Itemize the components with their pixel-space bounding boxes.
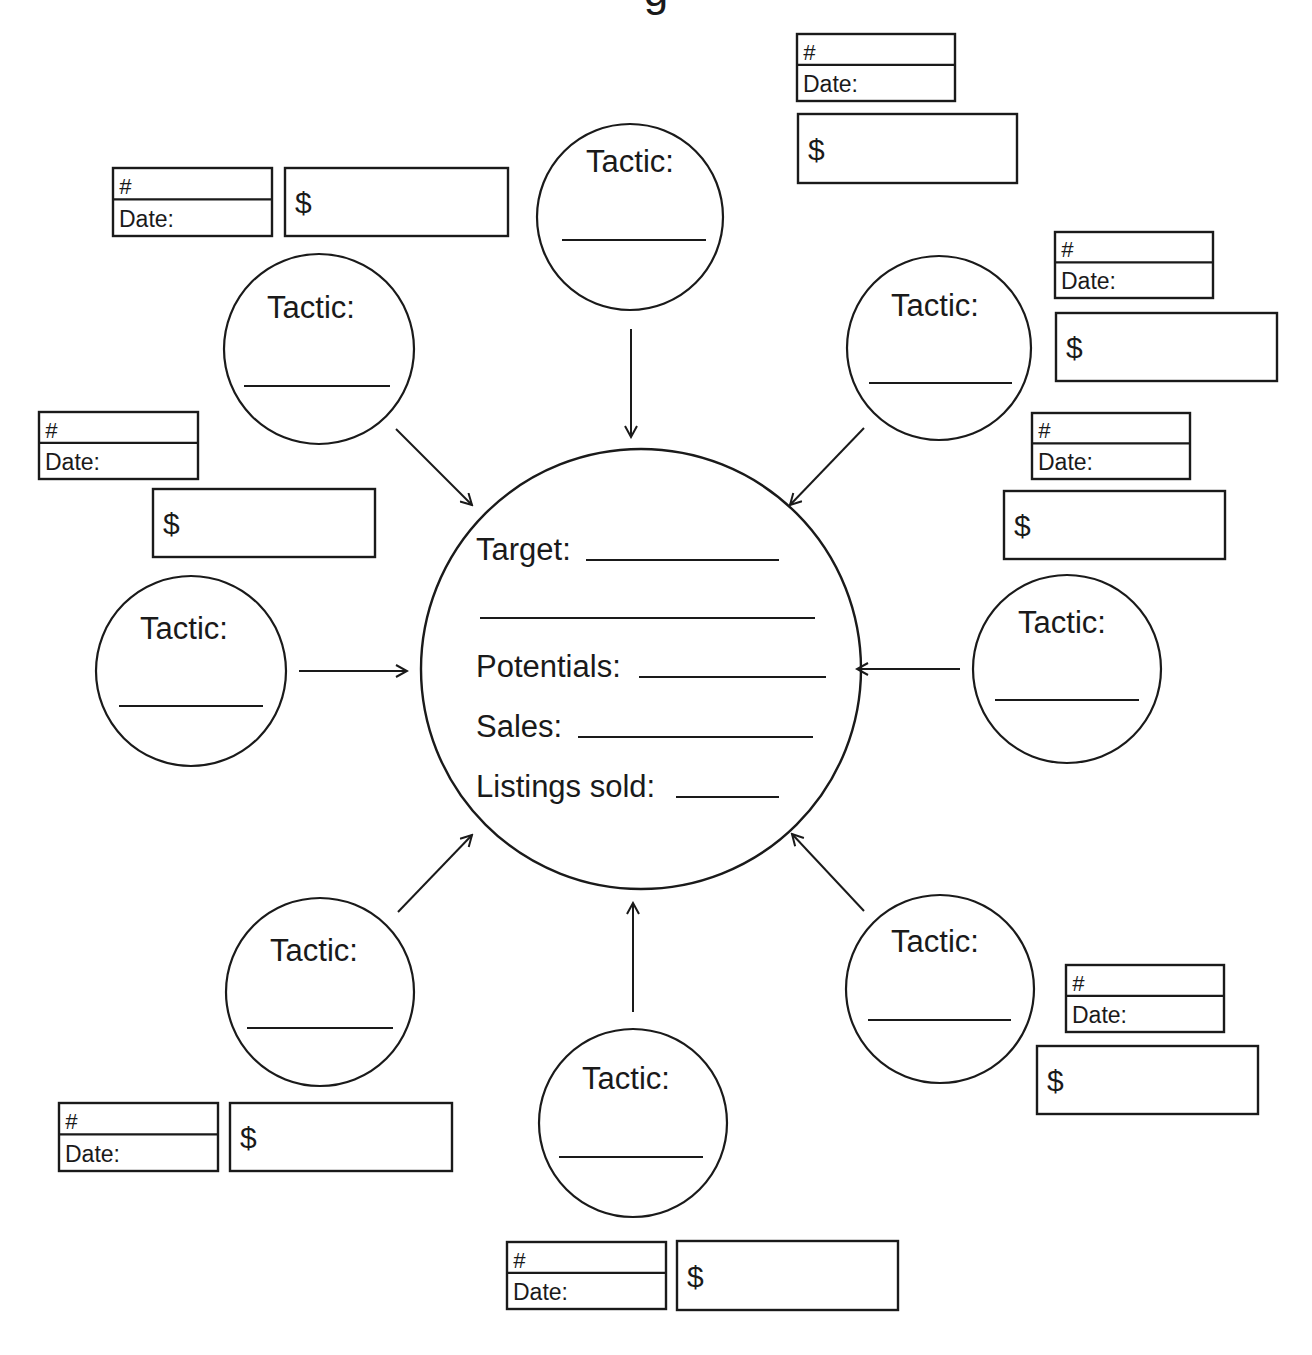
record-boxes: #Date:$#Date:$#Date:$#Date:$#Date:$#Date… (39, 34, 1277, 1310)
dollar-label: $ (163, 507, 180, 540)
number-label: # (65, 1109, 78, 1134)
tactic-lower-right: Tactic: (792, 834, 1034, 1083)
date-label: Date: (1061, 268, 1116, 294)
record-box-bottom: #Date:$ (507, 1241, 898, 1310)
tactic-label: Tactic: (586, 144, 674, 179)
date-label: Date: (513, 1279, 568, 1305)
number-label: # (1061, 237, 1074, 262)
tactic-label: Tactic: (891, 288, 979, 323)
arrow-icon (790, 428, 864, 505)
tactic-circle (539, 1029, 727, 1217)
date-label: Date: (1038, 449, 1093, 475)
arrow-icon (398, 835, 472, 912)
dollar-label: $ (1014, 509, 1031, 542)
tactic-label: Tactic: (140, 611, 228, 646)
tactic-right: Tactic: (857, 575, 1161, 763)
tactic-label: Tactic: (891, 924, 979, 959)
amount-box[interactable] (1004, 491, 1225, 559)
tactic-lower-left: Tactic: (226, 835, 472, 1086)
tactic-diagram-svg: Target:Potentials:Sales:Listings sold: T… (0, 0, 1312, 1355)
date-label: Date: (65, 1141, 120, 1167)
record-box-right: #Date:$ (1004, 413, 1225, 559)
tactic-bottom: Tactic: (539, 903, 727, 1217)
center-field-sales[interactable]: Sales: (476, 709, 813, 744)
center-field-potentials[interactable]: Potentials: (476, 649, 826, 684)
tactic-circle (847, 256, 1031, 440)
dollar-label: $ (240, 1121, 257, 1154)
record-box-top: #Date:$ (797, 34, 1017, 183)
center-target-circle: Target:Potentials:Sales:Listings sold: (421, 449, 861, 889)
dollar-label: $ (1066, 331, 1083, 364)
center-field-target[interactable]: Target: (476, 532, 779, 567)
dollar-label: $ (808, 133, 825, 166)
tactic-upper-left: Tactic: (224, 254, 472, 505)
number-label: # (513, 1248, 526, 1273)
dollar-label: $ (295, 186, 312, 219)
center-field-label: Sales: (476, 709, 562, 744)
arrow-icon (792, 834, 864, 911)
tactic-label: Tactic: (1018, 605, 1106, 640)
tactic-top: Tactic: (537, 124, 723, 437)
date-label: Date: (1072, 1002, 1127, 1028)
tactic-label: Tactic: (267, 290, 355, 325)
tactic-label: Tactic: (270, 933, 358, 968)
record-box-left: #Date:$ (39, 412, 375, 557)
date-label: Date: (119, 206, 174, 232)
center-field-listingssold[interactable]: Listings sold: (476, 769, 779, 804)
amount-box[interactable] (230, 1103, 452, 1171)
center-field-label: Listings sold: (476, 769, 655, 804)
amount-box[interactable] (798, 114, 1017, 183)
tactic-circle (973, 575, 1161, 763)
tactic-circle (96, 576, 286, 766)
amount-box[interactable] (677, 1241, 898, 1310)
tactic-left: Tactic: (96, 576, 407, 766)
tactic-label: Tactic: (582, 1061, 670, 1096)
tactic-circle (224, 254, 414, 444)
amount-box[interactable] (153, 489, 375, 557)
record-box-upper-left: #Date:$ (113, 168, 508, 236)
number-label: # (1038, 418, 1051, 443)
amount-box[interactable] (285, 168, 508, 236)
tactic-circles: Tactic:Tactic:Tactic:Tactic:Tactic:Tacti… (96, 124, 1161, 1217)
center-field-label: Potentials: (476, 649, 621, 684)
record-box-lower-left: #Date:$ (59, 1103, 452, 1171)
date-label: Date: (803, 71, 858, 97)
arrow-icon (396, 429, 472, 505)
number-label: # (1072, 971, 1085, 996)
tactic-upper-right: Tactic: (790, 256, 1031, 505)
number-label: # (45, 418, 58, 443)
date-label: Date: (45, 449, 100, 475)
record-box-upper-right: #Date:$ (1055, 232, 1277, 381)
center-field-label: Target: (476, 532, 571, 567)
amount-box[interactable] (1056, 313, 1277, 381)
number-label: # (119, 174, 132, 199)
number-label: # (803, 40, 816, 65)
tactic-circle (226, 898, 414, 1086)
dollar-label: $ (1047, 1064, 1064, 1097)
record-box-lower-right: #Date:$ (1037, 965, 1258, 1114)
dollar-label: $ (687, 1260, 704, 1293)
amount-box[interactable] (1037, 1046, 1258, 1114)
